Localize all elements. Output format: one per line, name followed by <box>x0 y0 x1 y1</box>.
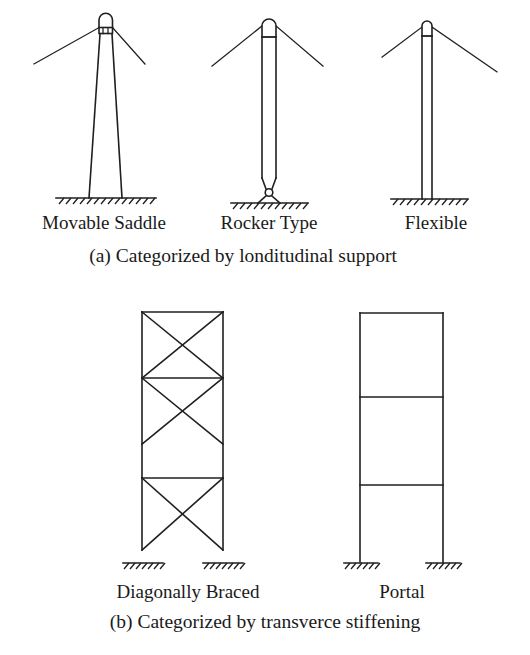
cable-right <box>276 26 323 66</box>
panel-a: Movable Saddle <box>34 13 497 267</box>
tower-movable-saddle: Movable Saddle <box>34 13 166 233</box>
tower-classification-figure: Movable Saddle <box>0 0 530 655</box>
figure-root: Movable Saddle <box>0 0 530 655</box>
panel-b: Diagonally Braced <box>110 312 462 633</box>
cable-left <box>382 27 422 57</box>
tower-flexible: Flexible <box>382 21 497 233</box>
cable-right <box>432 27 497 72</box>
taper-right <box>272 178 276 189</box>
label-portal: Portal <box>379 581 424 602</box>
baseplate-left <box>258 196 266 203</box>
support-hatching-left <box>345 563 380 569</box>
tower-rocker-type: Rocker Type <box>212 19 323 233</box>
label-rocker-type: Rocker Type <box>221 212 318 233</box>
ground-hatching <box>59 198 155 204</box>
ground-hatching <box>393 199 468 205</box>
cable-right <box>112 27 145 64</box>
ground-hatching <box>233 203 308 209</box>
support-hatching-right <box>427 563 462 569</box>
label-flexible: Flexible <box>405 212 467 233</box>
baseplate-right <box>272 196 280 203</box>
label-movable-saddle: Movable Saddle <box>42 212 166 233</box>
taper-left <box>262 178 266 189</box>
caption-panel-a: (a) Categorized by londitudinal support <box>89 245 397 267</box>
saddle-cap <box>99 13 113 28</box>
support-hatching-left <box>124 563 165 569</box>
cable-left <box>212 26 262 66</box>
caption-panel-b: (b) Categorized by transverce stiffening <box>110 611 421 633</box>
roller-box <box>99 28 113 34</box>
support-hatching-right <box>204 563 245 569</box>
rocker-pin <box>265 189 273 197</box>
tower-right-edge <box>112 34 122 198</box>
tower-cap <box>422 21 432 36</box>
label-diagonally-braced: Diagonally Braced <box>117 581 260 602</box>
frame-diagonally-braced: Diagonally Braced <box>117 312 260 602</box>
tower-left-edge <box>89 34 100 198</box>
cable-left <box>34 27 100 64</box>
frame-portal: Portal <box>344 313 462 602</box>
tower-cap <box>262 19 276 37</box>
